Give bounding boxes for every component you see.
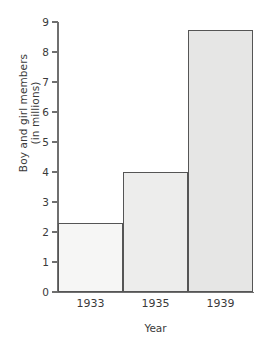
- y-tick-label: 6: [30, 107, 49, 118]
- bar-1939: [188, 30, 253, 293]
- plot-area: [58, 22, 253, 292]
- y-tick-label: 0: [30, 287, 49, 298]
- bar-chart-figure: Boy and girl members (in millions) 01234…: [0, 0, 267, 346]
- y-tick-label: 3: [30, 197, 49, 208]
- y-tick-label: 2: [30, 227, 49, 238]
- y-tick-label: 1: [30, 257, 49, 268]
- y-tick-label: 7: [30, 77, 49, 88]
- x-tick-label-1933: 1933: [58, 298, 123, 309]
- bar-1935: [123, 172, 188, 292]
- y-tick-label: 8: [30, 47, 49, 58]
- y-axis-title-line-1: Boy and girl members: [17, 54, 29, 172]
- y-tick-label: 5: [30, 137, 49, 148]
- y-tick-label: 4: [30, 167, 49, 178]
- x-tick-label-1939: 1939: [188, 298, 253, 309]
- x-tick-label-1935: 1935: [123, 298, 188, 309]
- y-tick-label: 9: [30, 17, 49, 28]
- bar-1933: [58, 223, 123, 292]
- x-axis-title: Year: [58, 322, 253, 334]
